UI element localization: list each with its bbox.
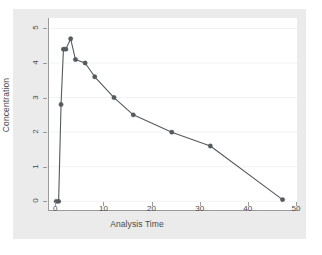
y-tick-mark xyxy=(43,28,47,29)
data-point-marker xyxy=(73,57,77,61)
data-point-marker xyxy=(93,75,97,79)
y-tick-mark xyxy=(43,201,47,202)
data-point-marker xyxy=(68,37,72,41)
y-axis-title: Concentration xyxy=(1,9,15,201)
y-tick-label: 0 xyxy=(31,195,40,207)
y-tick-label: 1 xyxy=(31,160,40,172)
x-tick-label: 40 xyxy=(240,204,256,213)
x-tick-label: 50 xyxy=(288,204,304,213)
data-point-marker xyxy=(131,113,135,117)
data-point-marker xyxy=(64,47,68,51)
y-tick-label: 5 xyxy=(31,22,40,34)
data-point-marker xyxy=(280,197,284,201)
data-point-marker xyxy=(170,130,174,134)
y-tick-label: 4 xyxy=(31,57,40,69)
plot-svg xyxy=(49,18,297,210)
y-tick-mark xyxy=(43,167,47,168)
data-point-marker xyxy=(208,144,212,148)
x-tick-label: 0 xyxy=(47,204,63,213)
x-tick-label: 30 xyxy=(192,204,208,213)
data-point-marker xyxy=(59,102,63,106)
y-tick-mark xyxy=(43,63,47,64)
x-tick-label: 10 xyxy=(95,204,111,213)
x-axis-title: Analysis Time xyxy=(13,219,261,229)
y-tick-mark xyxy=(43,132,47,133)
data-point-marker xyxy=(56,199,60,203)
graph-canvas: Concentration Analysis Time 012345 01020… xyxy=(13,9,306,239)
plot-region xyxy=(48,18,297,211)
y-tick-label: 3 xyxy=(31,91,40,103)
y-tick-mark xyxy=(43,98,47,99)
chart-screenshot: Concentration Analysis Time 012345 01020… xyxy=(0,0,322,255)
data-point-marker xyxy=(83,61,87,65)
x-tick-label: 20 xyxy=(144,204,160,213)
y-tick-label: 2 xyxy=(31,126,40,138)
data-point-marker xyxy=(112,95,116,99)
